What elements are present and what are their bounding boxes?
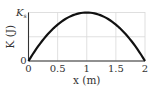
- x-tick-label-2: 2: [142, 63, 148, 74]
- chart: 00.511.52 0 Ks x (m) K (J): [0, 0, 156, 90]
- y-axis-label: K (J): [4, 25, 16, 49]
- x-tick-labels: 00.511.52: [25, 63, 148, 74]
- y-tick-label-0: 0: [20, 55, 26, 66]
- x-tick-label-0.5: 0.5: [50, 63, 66, 74]
- x-tick-label-1: 1: [84, 63, 90, 74]
- x-tick-label-1.5: 1.5: [108, 63, 124, 74]
- x-axis-label: x (m): [73, 74, 100, 86]
- y-tick-label-Ks: Ks: [15, 7, 27, 19]
- y-tick-label-Ks-sub: s: [23, 12, 26, 19]
